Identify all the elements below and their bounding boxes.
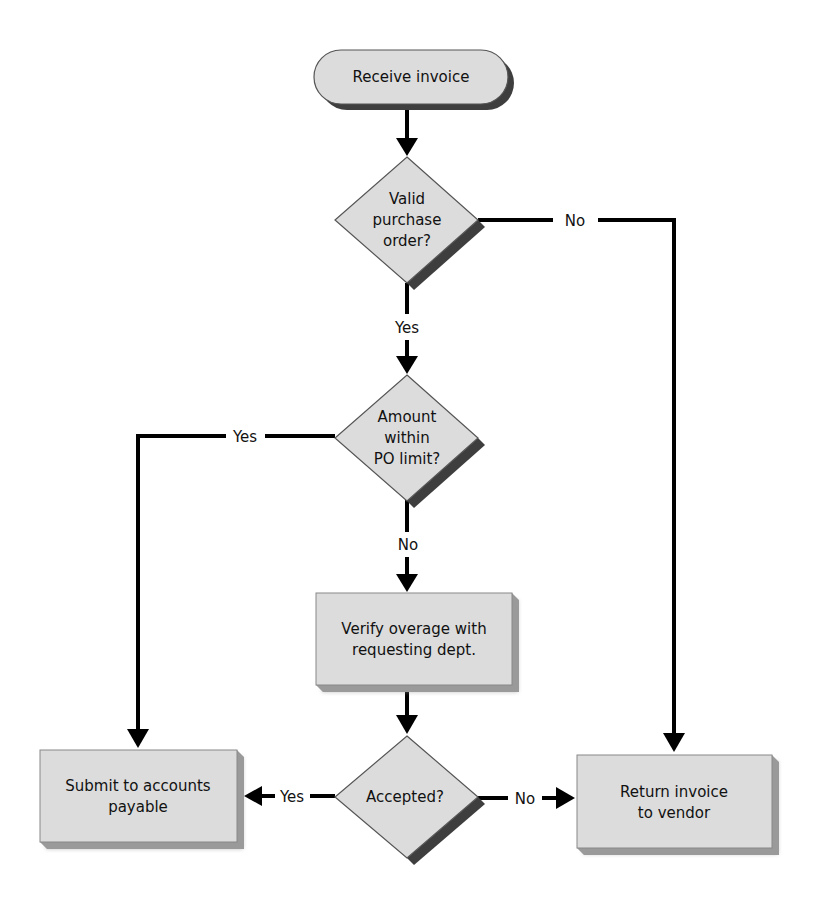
process-shape [316,593,512,685]
process-label-line: requesting dept. [352,641,476,659]
arrowhead-icon [396,356,418,374]
arrowhead-icon [663,733,685,752]
label-accepted-yes: Yes [279,788,304,806]
process-label-line: payable [108,798,168,816]
node-submit-accounts-payable: Submit to accounts payable [40,750,244,849]
arrowhead-icon [244,786,262,806]
decision-label-line: purchase [373,211,442,229]
node-return-invoice: Return invoice to vendor [577,755,779,855]
arrowhead-icon [396,715,418,734]
label-amount-yes: Yes [232,428,257,446]
node-amount-within-limit: Amount within PO limit? [335,375,485,508]
process-label-line: Verify overage with [341,620,486,638]
decision-label-line: PO limit? [374,450,441,468]
node-accepted: Accepted? [335,736,485,865]
process-label-line: Return invoice [620,783,728,801]
decision-label-line: Valid [389,190,425,208]
terminator-label: Receive invoice [353,68,470,86]
process-label-line: to vendor [638,804,711,822]
edge-amount-yes-b [138,436,226,732]
label-valid-no: No [565,212,585,230]
decision-label-line: Amount [378,408,437,426]
process-shape [40,750,237,842]
node-receive-invoice: Receive invoice [314,50,514,110]
arrowhead-icon [396,138,418,156]
label-amount-no: No [398,536,418,554]
process-shape [577,755,772,848]
arrowhead-icon [127,729,149,748]
node-valid-purchase-order: Valid purchase order? [335,157,485,290]
label-valid-yes: Yes [394,319,419,337]
process-label-line: Submit to accounts [65,777,211,795]
label-accepted-no: No [515,790,535,808]
decision-label-line: within [384,429,430,447]
arrowhead-icon [556,787,575,809]
edge-valid-no-b [598,220,674,736]
decision-label-line: Accepted? [366,788,444,806]
arrowhead-icon [396,574,418,592]
decision-label-line: order? [383,232,431,250]
node-verify-overage: Verify overage with requesting dept. [316,593,519,692]
flowchart: No Yes Yes No Yes No Receive invoice Val… [0,0,825,904]
